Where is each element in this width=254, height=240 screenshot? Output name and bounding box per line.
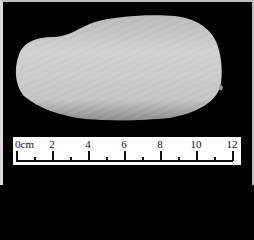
- ruler-label-4: 4: [85, 138, 91, 150]
- ruler-tick-major: [232, 151, 234, 161]
- specimen-tip: [219, 85, 223, 90]
- ruler-tick-minor: [106, 157, 108, 161]
- ruler-tick-minor: [214, 157, 216, 161]
- ruler-tick-minor: [142, 157, 144, 161]
- ruler-tick-major: [160, 151, 162, 161]
- ruler-label-0: 0cm: [15, 138, 34, 150]
- ruler-tick-minor: [178, 157, 180, 161]
- ruler-label-8: 8: [157, 138, 163, 150]
- ruler-tick-major: [52, 151, 54, 161]
- ruler-tick-major: [196, 151, 198, 161]
- scale-ruler: 0cm 2 4 6 8 10 12: [13, 137, 241, 165]
- ruler-tick-major: [88, 151, 90, 161]
- ruler-label-10: 10: [191, 138, 202, 150]
- ruler-label-2: 2: [49, 138, 55, 150]
- ruler-label-12: 12: [227, 138, 238, 150]
- ruler-label-6: 6: [121, 138, 127, 150]
- ruler-tick-major: [124, 151, 126, 161]
- ruler-tick-minor: [34, 157, 36, 161]
- ruler-tick-minor: [70, 157, 72, 161]
- ruler-tick-major: [16, 151, 18, 161]
